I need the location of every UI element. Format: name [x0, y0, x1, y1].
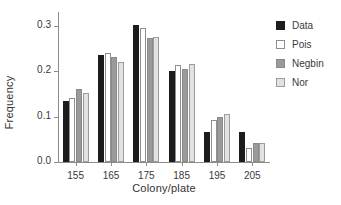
legend-swatch-icon [276, 40, 285, 49]
bar [76, 89, 82, 162]
bar [111, 57, 117, 162]
x-tick-mark [217, 162, 218, 166]
legend-label: Negbin [292, 58, 324, 69]
x-tick-mark [146, 162, 147, 166]
y-tick-mark [54, 71, 58, 72]
bar [224, 114, 230, 162]
bar [140, 28, 146, 162]
legend-label: Pois [292, 39, 311, 50]
x-tick-label: 205 [244, 170, 261, 181]
legend-swatch-icon [276, 78, 285, 87]
bar [217, 117, 223, 162]
y-tick-mark [54, 162, 58, 163]
x-tick-mark [182, 162, 183, 166]
bar [169, 71, 175, 162]
legend-item: Negbin [276, 54, 340, 73]
legend-label: Data [292, 20, 313, 31]
bar [98, 55, 104, 162]
y-tick-label: 0.0 [37, 155, 51, 166]
chart-legend: DataPoisNegbinNor [276, 16, 340, 92]
x-axis-label: Colony/plate [58, 182, 270, 194]
bar [175, 65, 181, 162]
bar [259, 143, 265, 162]
x-tick-mark [76, 162, 77, 166]
y-tick-label: 0.1 [37, 110, 51, 121]
x-tick-label: 175 [138, 170, 155, 181]
bar [83, 93, 89, 162]
y-axis-line [58, 12, 59, 162]
x-tick-label: 165 [103, 170, 120, 181]
bar [105, 53, 111, 162]
legend-swatch-icon [276, 59, 285, 68]
y-axis-label: Frequency [0, 0, 18, 205]
bar [147, 38, 153, 162]
bar [118, 62, 124, 162]
y-tick-label: 0.3 [37, 19, 51, 30]
x-tick-label: 155 [67, 170, 84, 181]
x-tick-mark [111, 162, 112, 166]
x-tick-mark [252, 162, 253, 166]
x-tick-label: 185 [173, 170, 190, 181]
legend-label: Nor [292, 77, 308, 88]
plot-area: 0.00.10.20.3 155165175185195205 [58, 12, 270, 162]
bar [153, 37, 159, 162]
legend-swatch-icon [276, 21, 285, 30]
y-tick-mark [54, 26, 58, 27]
bar-chart: Frequency 0.00.10.20.3 15516517518519520… [0, 0, 341, 205]
bar [63, 101, 69, 162]
bar [133, 25, 139, 162]
bar [189, 64, 195, 162]
x-tick-label: 195 [209, 170, 226, 181]
bar [246, 148, 252, 162]
y-tick-label: 0.2 [37, 64, 51, 75]
bar [182, 69, 188, 162]
legend-item: Pois [276, 35, 340, 54]
bar [204, 132, 210, 162]
bar [253, 143, 259, 162]
x-axis-line [58, 162, 270, 163]
legend-item: Nor [276, 73, 340, 92]
bar [69, 98, 75, 162]
y-tick-mark [54, 117, 58, 118]
bar [239, 132, 245, 162]
bar [211, 120, 217, 162]
legend-item: Data [276, 16, 340, 35]
